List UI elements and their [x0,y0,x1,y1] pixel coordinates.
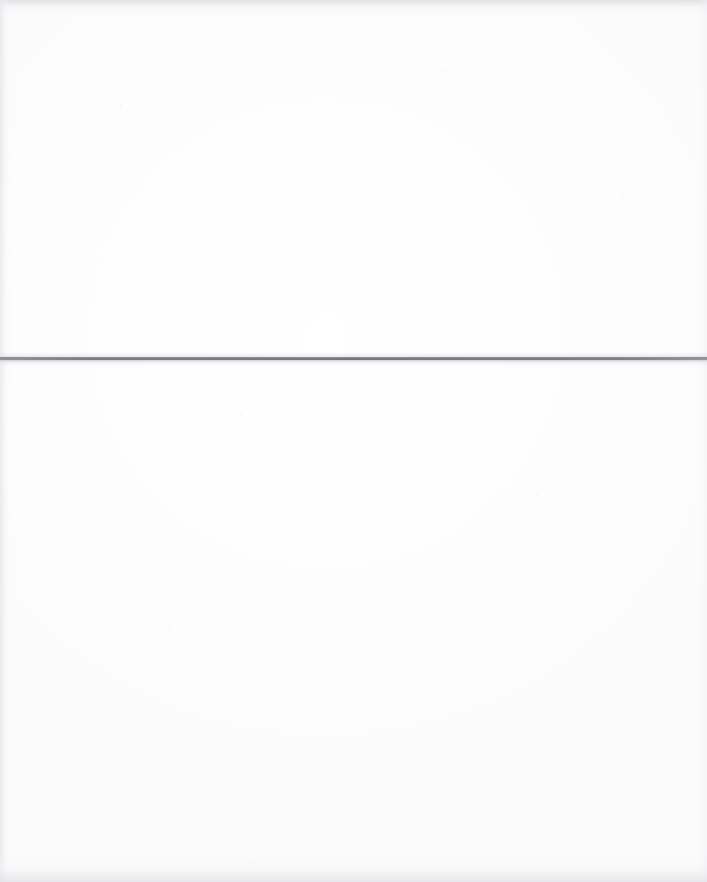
scanned-page [0,0,707,882]
divider-rule-line [0,357,707,360]
horizontal-divider-rule [0,352,707,366]
lower-blank-region [0,366,707,882]
divider-rule-halo [0,352,707,366]
upper-blank-region [0,0,707,352]
divider-rule-core [0,358,707,360]
